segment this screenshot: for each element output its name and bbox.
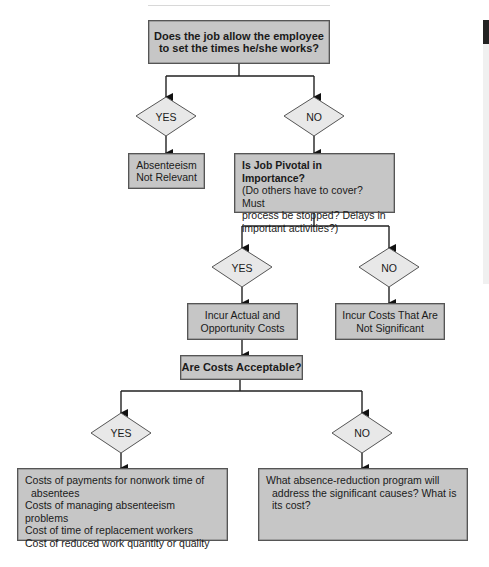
box-line: Not Relevant xyxy=(136,171,197,184)
absenteeism-not-relevant-box: Absenteeism Not Relevant xyxy=(128,153,205,189)
decision-no-self-schedule: NO xyxy=(284,97,344,137)
box-line: Incur Actual and xyxy=(200,309,284,322)
list-item: Costs of managing absenteeism problems xyxy=(25,499,220,524)
decision-yes-pivotal: YES xyxy=(212,248,272,288)
decision-yes-self-schedule: YES xyxy=(136,97,196,137)
box-line: Absenteeism xyxy=(136,159,197,172)
question-pivotal-box: Is Job Pivotal in Importance? (Do others… xyxy=(234,153,395,213)
box-line: Incur Costs That Are xyxy=(342,309,438,322)
decision-no-pivotal: NO xyxy=(359,248,419,288)
decision-label: NO xyxy=(332,413,392,453)
box-title: Is Job Pivotal in Importance? xyxy=(242,159,387,184)
decision-no-acceptable: NO xyxy=(332,413,392,453)
box-line: to set the times he/she works? xyxy=(154,42,324,55)
list-item: absentees xyxy=(25,487,220,500)
decision-label: YES xyxy=(136,97,196,137)
box-line: Does the job allow the employee xyxy=(154,30,324,43)
box-line: Not Significant xyxy=(342,322,438,335)
list-item: Cost of reduced work quantity or quality xyxy=(25,537,220,550)
list-item: Costs of payments for nonwork time of xyxy=(25,474,220,487)
question-self-schedule-box: Does the job allow the employee to set t… xyxy=(148,20,330,64)
box-line: address the significant causes? What is xyxy=(266,487,460,500)
decision-label: NO xyxy=(359,248,419,288)
cost-components-box: Costs of payments for nonwork time of ab… xyxy=(17,468,228,541)
box-line: Opportunity Costs xyxy=(200,322,284,335)
decision-label: YES xyxy=(91,413,151,453)
box-line: its cost? xyxy=(266,499,460,512)
box-line: (Do others have to cover? Must xyxy=(242,184,387,209)
box-line: process be stopped? Delays in xyxy=(242,209,387,222)
decision-label: NO xyxy=(284,97,344,137)
absence-reduction-program-box: What absence-reduction program will addr… xyxy=(258,468,468,541)
decision-label: YES xyxy=(212,248,272,288)
list-item: Cost of time of replacement workers xyxy=(25,524,220,537)
box-line: important activities?) xyxy=(242,222,387,235)
incur-costs-not-significant-box: Incur Costs That Are Not Significant xyxy=(335,303,445,340)
question-costs-acceptable-box: Are Costs Acceptable? xyxy=(180,355,303,380)
box-line: Are Costs Acceptable? xyxy=(181,361,301,374)
incur-actual-costs-box: Incur Actual and Opportunity Costs xyxy=(187,303,298,340)
box-line: What absence-reduction program will xyxy=(266,474,460,487)
decision-yes-acceptable: YES xyxy=(91,413,151,453)
